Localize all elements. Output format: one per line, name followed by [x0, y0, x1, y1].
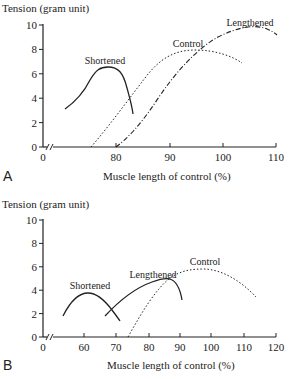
y-tick-6: 6 [32, 261, 38, 273]
y-tick-2: 2 [32, 117, 38, 129]
axis-break-icon [46, 334, 53, 340]
axis-break-icon [46, 144, 53, 150]
y-tick-4: 4 [32, 284, 38, 296]
chart-a-plot: 10 8 6 4 2 0 0 80 90 100 110 [0, 0, 297, 190]
series-shortened [63, 293, 120, 321]
panel-letter-a: A [3, 168, 12, 184]
series-lengthened [105, 279, 182, 316]
y-tick-10: 10 [26, 19, 38, 31]
panel-letter-b: B [3, 357, 12, 373]
y-tick-8: 8 [32, 43, 38, 55]
y-tick-0: 0 [32, 141, 38, 153]
label-control: Control [190, 256, 221, 267]
x-tick-110: 110 [268, 151, 285, 163]
label-shortened: Shortened [70, 280, 111, 291]
x-tick-120: 120 [268, 341, 285, 353]
y-tick-0: 0 [32, 331, 38, 343]
x-tick-80: 80 [111, 151, 123, 163]
x-tick-110: 110 [236, 341, 253, 353]
x-tick-100: 100 [215, 151, 232, 163]
x-axis-label: Muscle length of control (%) [103, 170, 231, 182]
x-tick-80: 80 [144, 341, 156, 353]
x-tick-0: 0 [40, 151, 46, 163]
chart-b-plot: 10 8 6 4 2 0 0 60 70 80 90 100 [0, 190, 297, 379]
label-lengthened: Lengthened [129, 269, 176, 280]
x-tick-90: 90 [165, 151, 177, 163]
chart-panel-a: Tension (gram unit) 10 8 6 4 2 0 [0, 0, 297, 190]
y-tick-8: 8 [32, 237, 38, 249]
series-shortened [65, 67, 133, 114]
x-tick-100: 100 [203, 341, 220, 353]
x-tick-0: 0 [40, 341, 46, 353]
x-tick-90: 90 [175, 341, 187, 353]
label-shortened: Shortened [85, 55, 126, 66]
label-lengthened: Lengthened [226, 17, 273, 28]
y-tick-4: 4 [32, 92, 38, 104]
x-tick-60: 60 [79, 341, 91, 353]
y-tick-6: 6 [32, 68, 38, 80]
x-axis-label: Muscle length of control (%) [107, 359, 235, 371]
y-tick-10: 10 [26, 214, 38, 226]
y-tick-2: 2 [32, 308, 38, 320]
chart-panel-b: Tension (gram unit) 10 8 6 4 2 0 [0, 190, 297, 379]
label-control: Control [173, 38, 204, 49]
x-tick-70: 70 [111, 341, 123, 353]
